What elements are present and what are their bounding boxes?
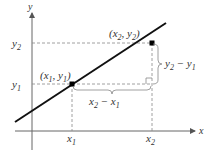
y-axis-label: y (27, 1, 33, 12)
slope-line (15, 23, 166, 122)
right-angle-marker (146, 78, 152, 84)
tick-x2: x2 (145, 132, 155, 147)
point-p2 (150, 41, 155, 46)
tick-y2: y2 (11, 37, 21, 52)
x-axis-label: x (198, 125, 204, 136)
horizontal-brace (73, 86, 151, 94)
slope-diagram: y x (x1, y1) (x2, y2) y2 y1 x1 x2 y2 − y… (0, 0, 216, 156)
vertical-brace-label: y2 − y1 (164, 57, 196, 72)
horizontal-brace-label: x2 − x1 (88, 95, 120, 110)
tick-x1: x1 (66, 132, 76, 147)
point-p1-label: (x1, y1) (40, 69, 71, 84)
point-p2-label: (x2, y2) (109, 27, 140, 42)
tick-y1: y1 (11, 78, 21, 93)
vertical-brace (153, 44, 162, 84)
point-p1 (70, 82, 75, 87)
dashed-guides (32, 43, 152, 131)
